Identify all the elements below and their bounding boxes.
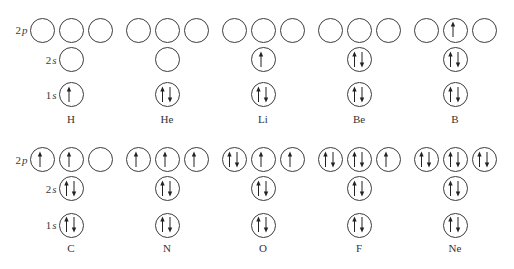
orbital-2p-3 [376,18,401,43]
spin-up-arrow-icon [353,180,357,196]
orbital-1s [59,82,84,107]
orbital-2p-2 [347,147,372,172]
orbital-2p-3 [376,147,401,172]
element-symbol: B [435,112,475,126]
subshell-letter: s [52,183,56,195]
orbital-2p-1 [414,18,439,43]
spin-down-arrow-icon [456,181,460,197]
shell-number: 2 [16,154,22,166]
orbital-2p-3 [472,18,497,43]
orbital-2p-1 [414,147,439,172]
orbital-1s [59,213,84,238]
orbital-2p-2 [155,147,180,172]
subshell-letter: s [52,54,56,66]
spin-up-arrow-icon [67,151,71,167]
spin-up-arrow-icon [449,180,453,196]
orbital-diagram: 2p2s1sHHeLiBeB2p2s1sCNOFNe [0,0,514,269]
shell-number: 2 [46,183,52,195]
orbital-label-2p: 2p [0,148,28,172]
orbital-2s [59,176,84,201]
orbital-2p-3 [472,147,497,172]
spin-up-arrow-icon [161,86,165,102]
spin-up-arrow-icon [478,151,482,167]
spin-up-arrow-icon [257,217,261,233]
spin-down-arrow-icon [72,217,76,233]
orbital-2s [155,176,180,201]
orbital-label-2p: 2p [0,18,28,42]
spin-down-arrow-icon [485,152,489,168]
orbital-2s [59,47,84,72]
shell-number: 2 [16,24,22,36]
element-symbol: N [147,241,187,255]
orbital-2p-2 [155,18,180,43]
element-symbol: He [147,112,187,126]
element-symbol: Be [339,112,379,126]
subshell-letter: p [22,24,28,36]
orbital-2p-2 [347,18,372,43]
spin-up-arrow-icon [259,151,263,167]
orbital-1s [155,213,180,238]
orbital-2s [251,47,276,72]
spin-up-arrow-icon [38,151,42,167]
orbital-2p-1 [318,147,343,172]
orbital-2s [251,176,276,201]
orbital-1s [347,82,372,107]
spin-up-arrow-icon [67,86,71,102]
subshell-letter: s [52,89,56,101]
spin-up-arrow-icon [257,180,261,196]
spin-down-arrow-icon [72,181,76,197]
spin-up-arrow-icon [449,51,453,67]
orbital-2p-1 [126,18,151,43]
spin-down-arrow-icon [264,87,268,103]
subshell-letter: p [22,154,28,166]
orbital-2p-3 [280,147,305,172]
spin-down-arrow-icon [360,181,364,197]
spin-up-arrow-icon [257,86,261,102]
orbital-2p-3 [88,147,113,172]
element-symbol: Li [243,112,283,126]
spin-up-arrow-icon [134,151,138,167]
orbital-2p-2 [251,18,276,43]
subshell-letter: s [52,219,56,231]
spin-up-arrow-icon [161,217,165,233]
spin-down-arrow-icon [168,181,172,197]
spin-down-arrow-icon [456,152,460,168]
spin-up-arrow-icon [451,22,455,38]
orbital-1s [251,213,276,238]
element-symbol: H [51,112,91,126]
spin-up-arrow-icon [161,180,165,196]
spin-down-arrow-icon [235,152,239,168]
element-symbol: Ne [435,241,475,255]
spin-up-arrow-icon [384,151,388,167]
orbital-2p-1 [30,147,55,172]
orbital-2p-1 [318,18,343,43]
orbital-2s [347,47,372,72]
orbital-1s [251,82,276,107]
spin-down-arrow-icon [456,52,460,68]
element-symbol: C [51,241,91,255]
orbital-label-1s: 1s [27,213,57,237]
element-symbol: O [243,241,283,255]
spin-down-arrow-icon [168,217,172,233]
spin-up-arrow-icon [192,151,196,167]
orbital-2p-1 [222,147,247,172]
shell-number: 1 [46,89,52,101]
orbital-2s [443,176,468,201]
orbital-2p-2 [59,147,84,172]
spin-down-arrow-icon [456,217,460,233]
spin-up-arrow-icon [353,51,357,67]
spin-up-arrow-icon [449,217,453,233]
orbital-2p-2 [251,147,276,172]
spin-up-arrow-icon [449,151,453,167]
spin-up-arrow-icon [288,151,292,167]
orbital-label-2s: 2s [27,48,57,72]
orbital-2p-3 [184,18,209,43]
orbital-2s [155,47,180,72]
spin-up-arrow-icon [420,151,424,167]
orbital-2p-1 [126,147,151,172]
orbital-2s [347,176,372,201]
spin-down-arrow-icon [360,152,364,168]
spin-down-arrow-icon [264,217,268,233]
shell-number: 2 [46,54,52,66]
orbital-2p-1 [222,18,247,43]
